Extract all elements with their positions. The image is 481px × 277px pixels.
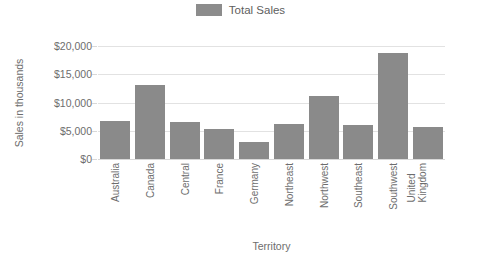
x-axis-tick-label: Germany: [249, 163, 260, 204]
y-axis-tick-label: $0: [30, 154, 92, 164]
x-axis-title: Territory: [98, 240, 445, 252]
bar[interactable]: [274, 124, 304, 159]
bar[interactable]: [170, 122, 200, 159]
bar-chart: Total Sales Sales in thousands $0$5,000$…: [0, 0, 481, 277]
bar[interactable]: [413, 127, 443, 159]
bar-slot: [306, 46, 341, 159]
bar[interactable]: [135, 85, 165, 159]
y-axis-tick-label: $5,000: [30, 126, 92, 136]
y-axis-tick-label: $20,000: [30, 41, 92, 51]
x-axis-tick-slot: UnitedKingdom: [410, 161, 445, 239]
x-axis-tick-slot: Germany: [237, 161, 272, 239]
y-axis-title: Sales in thousands: [10, 44, 28, 162]
x-axis-tick-label: Central: [179, 163, 190, 195]
y-axis-tick-labels: $0$5,000$10,000$15,000$20,000: [28, 46, 92, 159]
y-axis-tick-mark: [92, 74, 97, 75]
y-axis-tick-mark: [92, 103, 97, 104]
bar-slot: [133, 46, 168, 159]
bar-slot: [98, 46, 133, 159]
bar-slot: [376, 46, 411, 159]
x-axis-tick-slot: France: [202, 161, 237, 239]
x-axis-tick-slot: Northeast: [272, 161, 307, 239]
legend-label-total-sales: Total Sales: [229, 4, 285, 16]
bar-slot: [410, 46, 445, 159]
bar[interactable]: [343, 125, 373, 159]
y-axis-tick-mark: [92, 159, 97, 160]
x-axis-tick-slot: Canada: [133, 161, 168, 239]
gridline: [98, 159, 445, 160]
bar[interactable]: [100, 121, 130, 159]
y-axis-tick-mark: [92, 46, 97, 47]
bar[interactable]: [239, 142, 269, 160]
bar-slot: [237, 46, 272, 159]
x-axis-tick-label: Southeast: [353, 163, 364, 208]
x-axis-tick-label-line: United: [406, 163, 417, 202]
bar-slot: [272, 46, 307, 159]
x-axis-tick-slot: Australia: [98, 161, 133, 239]
plot-area: [98, 46, 445, 159]
bar[interactable]: [309, 96, 339, 159]
x-axis-tick-label: Northeast: [283, 163, 294, 206]
x-axis-tick-label: Canada: [145, 163, 156, 198]
x-axis-tick-label: Southwest: [387, 163, 398, 210]
x-axis-tick-label: UnitedKingdom: [406, 163, 428, 202]
y-axis-title-text: Sales in thousands: [13, 59, 25, 148]
x-axis-tick-slot: Central: [167, 161, 202, 239]
bar-series-total-sales: [98, 46, 445, 159]
y-axis-tick-label: $15,000: [30, 69, 92, 79]
bar[interactable]: [378, 53, 408, 159]
x-axis-tick-label-line: Kingdom: [417, 163, 428, 202]
bar-slot: [341, 46, 376, 159]
x-axis-tick-slot: Southeast: [341, 161, 376, 239]
y-axis-tick-mark: [92, 131, 97, 132]
bar-slot: [202, 46, 237, 159]
y-axis-tick-label: $10,000: [30, 98, 92, 108]
x-axis-tick-slot: Northwest: [306, 161, 341, 239]
legend-swatch-total-sales: [196, 4, 222, 16]
x-axis-tick-label: France: [214, 163, 225, 194]
x-axis-tick-label: Australia: [110, 163, 121, 202]
chart-legend: Total Sales: [0, 4, 481, 16]
x-axis-tick-label: Northwest: [318, 163, 329, 208]
bar-slot: [167, 46, 202, 159]
bar[interactable]: [204, 129, 234, 160]
x-axis-tick-labels: AustraliaCanadaCentralFranceGermanyNorth…: [98, 161, 445, 239]
